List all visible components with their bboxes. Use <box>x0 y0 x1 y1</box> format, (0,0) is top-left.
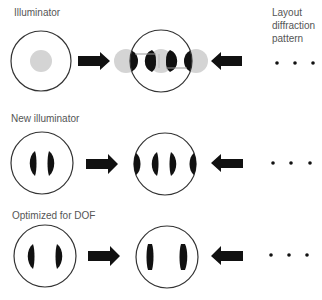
right-arrow-icon <box>88 246 120 266</box>
source-pole-left <box>30 151 37 176</box>
diffraction-dot <box>269 253 273 257</box>
diffraction-dot <box>275 61 279 65</box>
row-new-illuminator <box>11 132 312 195</box>
source-pole-left <box>28 244 35 269</box>
row-optimized-for-dof <box>14 225 309 288</box>
left-arrow-icon <box>211 246 243 265</box>
diffraction-dot <box>308 161 312 165</box>
source-pole-right <box>48 151 55 176</box>
overlap-inner-left <box>152 152 159 176</box>
left-arrow-icon <box>211 52 242 70</box>
diffraction-dot <box>293 61 297 65</box>
diffraction-dot <box>311 61 315 65</box>
illuminator-pupil-circle <box>14 225 76 287</box>
overlap-inner-right <box>170 152 177 176</box>
projection-pupil-circle <box>136 226 198 288</box>
diffraction-dot <box>305 253 309 257</box>
row-illuminator <box>11 30 315 92</box>
projection-pupil-circle <box>134 133 196 195</box>
illuminator-pupil-circle <box>11 132 73 194</box>
source-pole-right <box>56 244 63 269</box>
overlap-left <box>147 244 154 270</box>
diffraction-dot <box>289 161 293 165</box>
diffraction-dot <box>271 161 275 165</box>
right-arrow-icon <box>86 154 118 174</box>
conventional-source-disk <box>30 50 52 72</box>
overlap-right <box>180 244 188 270</box>
left-arrow-icon <box>211 154 243 172</box>
diffraction-dot <box>287 253 291 257</box>
right-arrow-icon <box>78 52 110 70</box>
diagram-canvas <box>0 0 322 300</box>
